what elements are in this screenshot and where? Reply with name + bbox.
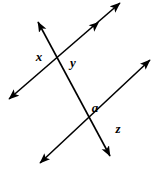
angle-label-z: z	[115, 122, 120, 135]
geometry-canvas	[0, 0, 152, 170]
angle-label-y: y	[70, 56, 76, 69]
geometry-figure: x y a z	[0, 0, 152, 170]
lines-group	[9, 3, 150, 163]
angle-label-x: x	[36, 50, 43, 63]
angle-label-a: a	[92, 101, 99, 114]
line-upper-parallel	[9, 3, 120, 99]
